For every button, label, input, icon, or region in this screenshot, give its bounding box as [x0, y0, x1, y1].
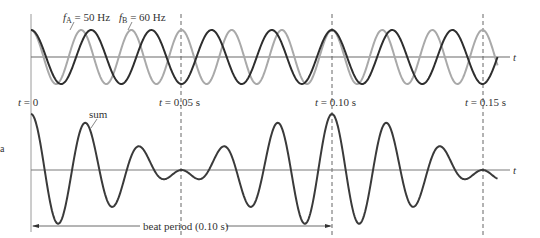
marker-label-t0: t = 0 [18, 96, 38, 108]
arrowhead-left [32, 224, 39, 228]
marker-label-t015: t = 0.15 s [465, 96, 506, 108]
leader-sum [91, 119, 97, 128]
beat-period-label: beat period (0.10 s) [143, 220, 229, 232]
bottom-axis-t-label: t [513, 164, 516, 176]
sum-label: sum [89, 108, 107, 120]
side-fragment: a [0, 143, 4, 155]
beat-figure [0, 0, 540, 238]
arrowhead-right [325, 224, 332, 228]
legend-wave-a: fA = 50 Hz [63, 11, 110, 27]
marker-label-t005: t = 0.05 s [159, 96, 200, 108]
sum-wave [31, 114, 498, 224]
legend-wave-b: fB = 60 Hz [119, 11, 166, 27]
fa-value: = 50 Hz [72, 11, 110, 23]
top-axis-t-label: t [513, 51, 516, 63]
fb-value: = 60 Hz [127, 11, 165, 23]
marker-label-t010: t = 0.10 s [315, 96, 356, 108]
